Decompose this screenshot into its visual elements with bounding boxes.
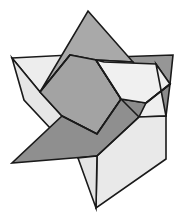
interwoven-star-figure bbox=[0, 0, 186, 221]
figure-canvas bbox=[0, 0, 186, 221]
light-blade-bottom bbox=[78, 156, 97, 208]
